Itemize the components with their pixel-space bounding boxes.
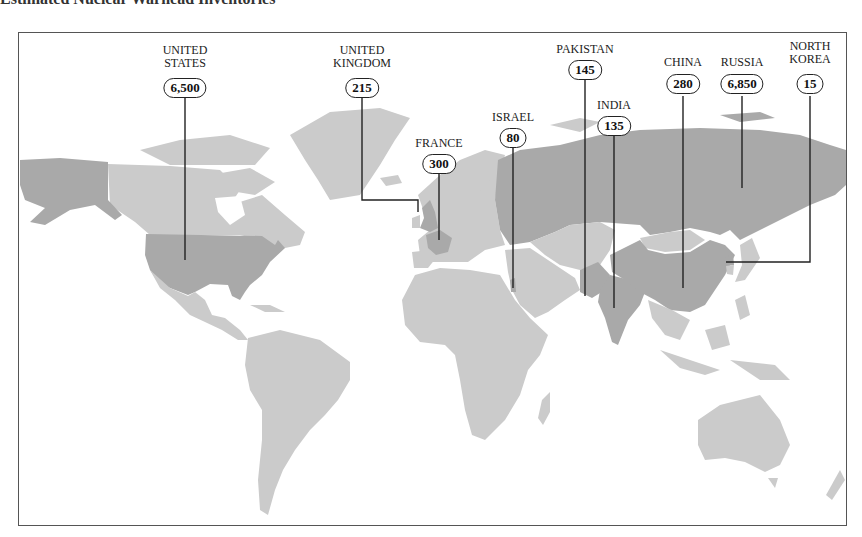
australia-shape — [698, 395, 790, 472]
greenland-shape — [290, 108, 410, 200]
label-china: CHINA — [664, 56, 702, 69]
alaska-shape — [20, 158, 122, 225]
russia-shape — [495, 128, 846, 245]
count-united-kingdom: 215 — [345, 78, 379, 98]
label-russia: RUSSIA — [721, 56, 764, 69]
label-north-korea: NORTHKOREA — [789, 40, 830, 66]
count-france: 300 — [422, 154, 456, 174]
label-united-states: UNITEDSTATES — [163, 44, 208, 70]
label-united-kingdom: UNITEDKINGDOM — [333, 44, 391, 70]
count-north-korea: 15 — [797, 74, 824, 94]
label-israel: ISRAEL — [492, 111, 534, 124]
count-china: 280 — [666, 74, 700, 94]
count-russia: 6,850 — [720, 74, 763, 94]
count-united-states: 6,500 — [163, 78, 206, 98]
count-israel: 80 — [500, 128, 527, 148]
count-pakistan: 145 — [568, 60, 602, 80]
label-france: FRANCE — [415, 137, 462, 150]
south-america-shape — [245, 330, 350, 515]
count-india: 135 — [597, 116, 631, 136]
label-india: INDIA — [597, 99, 631, 112]
label-pakistan: PAKISTAN — [556, 43, 613, 56]
